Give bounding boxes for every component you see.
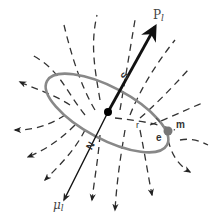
field-line-icon bbox=[64, 25, 95, 110]
mass-label: m bbox=[176, 119, 185, 130]
field-line-icon bbox=[94, 15, 100, 100]
field-arrow-icon bbox=[168, 140, 190, 172]
field-arrow-icon bbox=[140, 130, 152, 195]
electron-dot bbox=[164, 127, 173, 136]
field-line-icon bbox=[140, 70, 188, 118]
field-line-icon bbox=[180, 139, 208, 145]
dipole-diagram: Pl μl S N m e r bbox=[0, 0, 214, 222]
field-arrow-icon bbox=[15, 115, 65, 130]
field-arrow-icon bbox=[28, 125, 75, 157]
field-arrow-icon bbox=[115, 130, 125, 210]
field-line-icon bbox=[130, 40, 175, 115]
magnetic-moment-label: μl bbox=[53, 198, 64, 213]
radius-label: r bbox=[136, 120, 139, 130]
field-arrow-icon bbox=[45, 130, 85, 180]
magnetic-moment-arrow-icon bbox=[64, 112, 108, 200]
angular-momentum-arrow-icon bbox=[108, 27, 155, 112]
nucleus-dot bbox=[104, 108, 112, 116]
field-line-icon bbox=[32, 55, 85, 115]
angular-momentum-label: Pl bbox=[153, 8, 164, 23]
charge-label: e bbox=[156, 132, 162, 143]
north-pole-label: N bbox=[84, 140, 97, 152]
